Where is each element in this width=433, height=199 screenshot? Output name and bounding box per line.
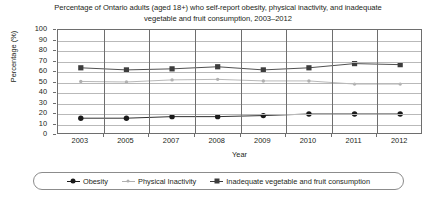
x-tick-label: 2008 xyxy=(208,137,224,145)
y-tick-mark xyxy=(53,71,56,72)
x-gridline xyxy=(195,30,196,133)
x-tick-label: 2010 xyxy=(300,137,316,145)
y-tick-label: 80 xyxy=(39,46,47,53)
y-tick-mark xyxy=(53,134,56,135)
y-tick-label: 30 xyxy=(39,99,47,106)
x-tick-label: 2005 xyxy=(117,137,133,145)
legend-circle-icon xyxy=(67,177,80,185)
legend-square-icon xyxy=(210,177,223,185)
x-tick-mark xyxy=(240,134,241,137)
y-tick-mark xyxy=(53,50,56,51)
y-tick-label: 70 xyxy=(39,57,47,64)
legend-item-3[interactable]: Inadequate vegetable and fruit consumpti… xyxy=(210,177,370,186)
data-point xyxy=(78,116,83,121)
x-tick-label: 2012 xyxy=(391,137,407,145)
y-tick-mark xyxy=(53,124,56,125)
data-point xyxy=(216,78,219,81)
y-tick-label: 40 xyxy=(39,88,47,95)
x-tick-mark xyxy=(376,134,377,137)
y-tick-label: 0 xyxy=(43,130,47,137)
y-gridline xyxy=(58,51,421,52)
y-tick-mark xyxy=(53,103,56,104)
x-gridline xyxy=(377,30,378,133)
chart-legend: ObesityPhysical InactivityInadequate veg… xyxy=(33,172,404,190)
legend-label: Obesity xyxy=(83,177,108,186)
x-gridline xyxy=(286,30,287,133)
y-tick-label: 100 xyxy=(35,25,47,32)
y-tick-mark xyxy=(53,40,56,41)
data-point xyxy=(78,65,83,70)
x-tick-label: 2011 xyxy=(346,137,362,145)
x-gridline xyxy=(149,30,150,133)
y-tick-mark xyxy=(53,82,56,83)
legend-dot-icon xyxy=(122,177,135,185)
x-axis-title: Year xyxy=(57,150,422,159)
legend-label: Inadequate vegetable and fruit consumpti… xyxy=(226,177,370,186)
y-gridline xyxy=(58,114,421,115)
y-tick-label: 20 xyxy=(39,109,47,116)
y-gridline xyxy=(58,83,421,84)
x-tick-label: 2009 xyxy=(254,137,270,145)
y-gridline xyxy=(58,72,421,73)
y-tick-label: 50 xyxy=(39,78,47,85)
data-point xyxy=(124,116,129,121)
data-point xyxy=(169,66,174,71)
x-tick-mark xyxy=(285,134,286,137)
legend-item-2[interactable]: Physical Inactivity xyxy=(122,177,196,186)
plot-area xyxy=(57,29,422,134)
y-axis-tick-labels: 0102030405060708090100 xyxy=(0,29,53,134)
x-tick-label: 2007 xyxy=(163,137,179,145)
y-gridline xyxy=(58,62,421,63)
legend-label: Physical Inactivity xyxy=(138,177,196,186)
y-tick-mark xyxy=(53,113,56,114)
y-gridline xyxy=(58,93,421,94)
data-point xyxy=(398,62,403,67)
x-gridline xyxy=(332,30,333,133)
y-gridline xyxy=(58,41,421,42)
x-axis-tick-labels: 20032005200720082009201020112012 xyxy=(57,137,422,149)
data-point xyxy=(306,65,311,70)
y-tick-label: 10 xyxy=(39,120,47,127)
x-tick-mark xyxy=(148,134,149,137)
y-gridline xyxy=(58,104,421,105)
chart-title: Percentage of Ontario adults (aged 18+) … xyxy=(42,3,394,24)
x-tick-label: 2003 xyxy=(72,137,88,145)
x-gridline xyxy=(104,30,105,133)
x-tick-mark xyxy=(331,134,332,137)
x-gridline xyxy=(241,30,242,133)
y-tick-label: 90 xyxy=(39,36,47,43)
chart-figure: Percentage of Ontario adults (aged 18+) … xyxy=(0,0,433,199)
x-tick-mark xyxy=(103,134,104,137)
data-point xyxy=(170,78,173,81)
x-tick-mark xyxy=(194,134,195,137)
y-tick-mark xyxy=(53,61,56,62)
y-tick-label: 60 xyxy=(39,67,47,74)
y-tick-mark xyxy=(53,29,56,30)
legend-item-1[interactable]: Obesity xyxy=(67,177,108,186)
y-gridline xyxy=(58,125,421,126)
data-point xyxy=(215,64,220,69)
y-tick-mark xyxy=(53,92,56,93)
